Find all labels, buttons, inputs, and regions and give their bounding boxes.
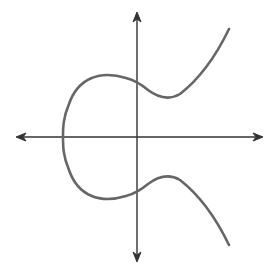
elliptic-curve-diagram: Elliptic curve	[0, 0, 276, 271]
axes	[16, 12, 263, 262]
